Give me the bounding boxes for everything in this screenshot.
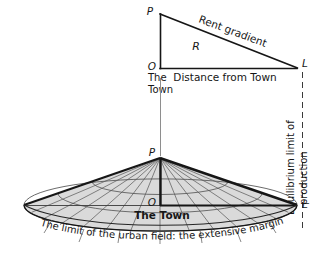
- rent-area-r-label: R: [192, 40, 200, 53]
- upper-vertex-l-label: L: [302, 57, 308, 69]
- cone-rim-l-label: L: [302, 198, 308, 210]
- rent-gradient-triangle: P O L R Rent gradient Distance from Town…: [147, 5, 308, 95]
- cone-center-o-label: O: [148, 196, 156, 208]
- urban-field-cone: P O L The Town The limit of the urban fi…: [24, 146, 308, 244]
- upper-vertex-p-label: P: [147, 5, 154, 17]
- distance-from-town-label: Distance from Town: [173, 71, 276, 83]
- diagram-canvas: P O L R Rent gradient Distance from Town…: [0, 0, 326, 258]
- cone-center-caption: The Town: [134, 209, 190, 221]
- equilibrium-limit-label-line2: production: [298, 151, 309, 205]
- upper-vertex-o-label: O: [148, 60, 156, 72]
- upper-origin-caption-line1: The: [147, 72, 167, 83]
- cone-apex-p-label: P: [149, 146, 156, 158]
- figure-root: P O L R Rent gradient Distance from Town…: [0, 0, 326, 258]
